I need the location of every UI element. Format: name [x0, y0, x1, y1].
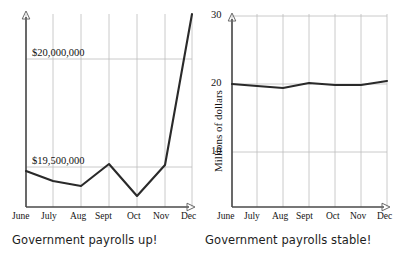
x-tick-label-nov: Nov [350, 211, 366, 221]
y-annotation-19-5-million: $19,500,000 [32, 155, 85, 166]
x-tick-label-oct: Oct [127, 211, 141, 221]
y-tick-label-20: 20 [211, 77, 222, 88]
caption-payrolls-up: Government payrolls up! [12, 233, 158, 247]
y-annotation-20-million: $20,000,000 [32, 47, 85, 58]
x-tick-label-aug: Aug [272, 211, 288, 221]
x-tick-label-nov: Nov [153, 211, 169, 221]
x-tick-label-july: July [244, 211, 260, 221]
x-tick-label-oct: Oct [326, 211, 340, 221]
vertical-gridlines [232, 14, 387, 207]
chart-panel-left: $20,000,000 $19,500,000 June July Aug Se… [0, 0, 198, 259]
y-axis-title-millions-of-dollars: Millions of dollars [212, 90, 224, 172]
data-line-payrolls [232, 81, 387, 88]
x-tick-label-sept: Sept [95, 211, 112, 221]
x-tick-label-sept: Sept [296, 211, 313, 221]
x-tick-label-june: June [12, 211, 29, 221]
x-tick-label-july: July [41, 211, 57, 221]
x-tick-label-dec: Dec [181, 211, 196, 221]
x-tick-label-dec: Dec [377, 211, 392, 221]
vertical-gridlines [26, 14, 192, 207]
caption-payrolls-stable: Government payrolls stable! [205, 233, 372, 247]
y-tick-label-30: 30 [211, 9, 222, 20]
x-tick-label-aug: Aug [70, 211, 86, 221]
x-tick-label-june: June [217, 211, 234, 221]
chart-panel-right: 30 20 10 Millions of dollars June July A… [198, 0, 397, 259]
